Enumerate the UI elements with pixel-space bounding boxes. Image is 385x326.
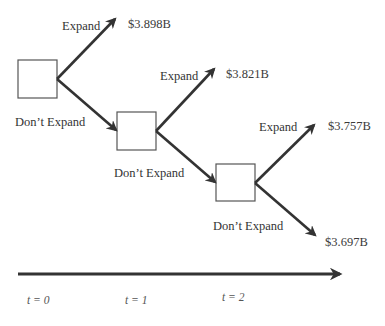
edge-label-t1-expand: Expand xyxy=(160,69,199,83)
outcome-t2-expand: $3.757B xyxy=(328,119,371,133)
decision-node-t1 xyxy=(117,112,156,150)
decision-node-t0 xyxy=(18,60,57,98)
decision-node-t2 xyxy=(216,164,255,201)
outcome-t1-expand: $3.821B xyxy=(226,67,269,81)
outcome-t2-dont-expand: $3.697B xyxy=(325,235,368,249)
outcome-t0-expand: $3.898B xyxy=(128,17,171,31)
timeline-tick-t0: t = 0 xyxy=(27,294,50,306)
timeline-tick-t1: t = 1 xyxy=(125,294,147,306)
timeline-tick-t2: t = 2 xyxy=(222,291,245,303)
edge-label-t0-expand: Expand xyxy=(62,19,101,33)
edge-label-t2-expand: Expand xyxy=(259,120,298,134)
node-label-t0-dont-expand: Don’t Expand xyxy=(15,115,86,129)
node-label-t1-dont-expand: Don’t Expand xyxy=(114,166,185,180)
decision-tree-diagram: Expand Don’t Expand Expand Don’t Expand … xyxy=(0,0,385,326)
node-label-t2-dont-expand: Don’t Expand xyxy=(213,219,284,233)
